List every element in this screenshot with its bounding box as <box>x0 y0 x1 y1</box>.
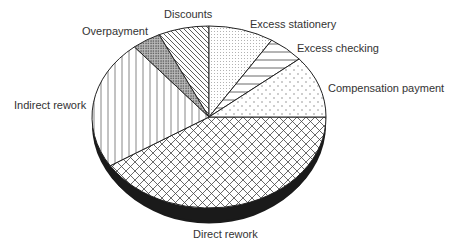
slice-label: Direct rework <box>193 228 258 240</box>
pie-slices <box>92 26 326 208</box>
slice-label: Overpayment <box>82 25 148 37</box>
pie-chart <box>0 0 457 247</box>
slice-label: Compensation payment <box>328 82 444 94</box>
slice-label: Discounts <box>164 8 212 20</box>
slice-label: Indirect rework <box>14 99 86 111</box>
slice-label: Excess checking <box>297 42 379 54</box>
slice-label: Excess stationery <box>250 18 336 30</box>
